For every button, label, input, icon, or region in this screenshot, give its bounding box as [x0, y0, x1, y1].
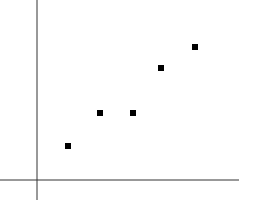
scatter-chart [0, 0, 263, 200]
data-point [158, 65, 164, 71]
data-point [130, 110, 136, 116]
data-points [65, 44, 198, 149]
data-point [192, 44, 198, 50]
data-point [97, 110, 103, 116]
data-point [65, 143, 71, 149]
